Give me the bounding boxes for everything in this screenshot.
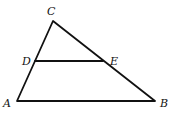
triangle-diagram: C D E A B	[0, 0, 176, 114]
label-d: D	[21, 55, 31, 68]
label-b: B	[159, 97, 168, 110]
label-a: A	[2, 97, 11, 110]
label-e: E	[109, 55, 118, 68]
label-c: C	[47, 5, 56, 18]
